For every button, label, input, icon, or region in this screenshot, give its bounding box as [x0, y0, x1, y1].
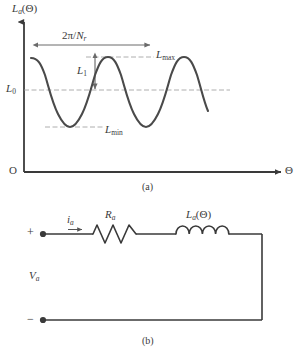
origin-label: O [9, 165, 17, 176]
panel-a-caption: (a) [142, 182, 153, 192]
inductor-label: La(Θ) [186, 209, 211, 222]
circuit-panel [40, 225, 262, 323]
current-label: ia [67, 214, 74, 227]
plot-panel [24, 22, 281, 172]
panel-b-caption: (b) [142, 336, 154, 346]
x-axis-label: Θ [285, 165, 293, 176]
l1-label: L1 [77, 65, 87, 78]
inductor-symbol [176, 226, 229, 234]
y-axis-label: La(Θ) [12, 3, 37, 16]
period-label: 2π/Nr [62, 30, 86, 43]
lmin-label: Lmin [105, 124, 123, 137]
resistor-symbol [93, 225, 136, 243]
resistor-label: Ra [105, 209, 115, 222]
source-voltage-label: Va [29, 270, 39, 283]
negative-terminal-label: − [27, 313, 34, 325]
figure-container: La(Θ) 2π/Nr Lmax L1 L0 Lmin O Θ (a) + − … [0, 0, 299, 356]
positive-terminal-label: + [27, 226, 34, 238]
figure-graphics [0, 0, 299, 356]
l0-label: L0 [6, 83, 16, 96]
inductance-curve [31, 57, 208, 127]
lmax-label: Lmax [156, 49, 175, 62]
